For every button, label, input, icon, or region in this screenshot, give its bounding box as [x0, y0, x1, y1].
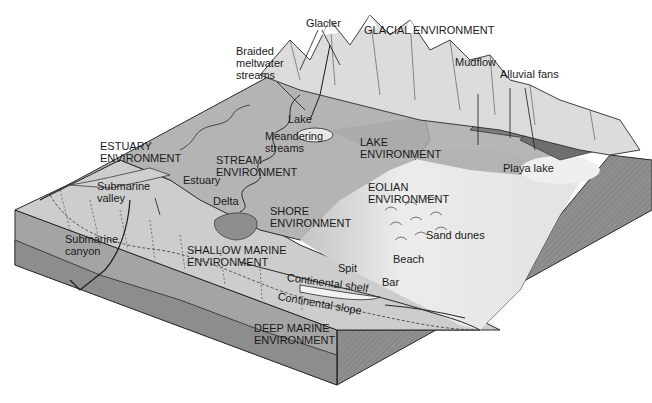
label-stream-environment: STREAM ENVIRONMENT — [216, 154, 297, 178]
label-deep-marine-environment: DEEP MARINE ENVIRONMENT — [254, 322, 335, 346]
label-shallow-marine-environment: SHALLOW MARINE ENVIRONMENT — [187, 244, 287, 268]
label-playa-lake: Playa lake — [503, 162, 554, 174]
label-alluvial-fans: Alluvial fans — [500, 68, 559, 80]
label-estuary: Estuary — [183, 174, 220, 186]
label-shore-environment: SHORE ENVIRONMENT — [270, 205, 351, 229]
label-delta: Delta — [213, 195, 239, 207]
label-beach: Beach — [393, 253, 424, 265]
label-mudflow: Mudflow — [455, 56, 496, 68]
label-sand-dunes: Sand dunes — [426, 229, 485, 241]
label-lake-environment: LAKE ENVIRONMENT — [360, 136, 441, 160]
label-glacier: Glacier — [306, 17, 341, 29]
label-glacial-environment: GLACIAL ENVIRONMENT — [364, 24, 494, 36]
label-eolian-environment: EOLIAN ENVIRONMENT — [368, 181, 449, 205]
label-bar: Bar — [382, 276, 399, 288]
label-spit: Spit — [338, 262, 357, 274]
label-submarine-canyon: Submarine canyon — [65, 233, 118, 257]
label-submarine-valley: Submarine valley — [97, 180, 150, 204]
label-meandering-streams: Meandering streams — [265, 130, 323, 154]
label-estuary-environment: ESTUARY ENVIRONMENT — [100, 140, 181, 164]
label-braided-streams: Braided meltwater streams — [236, 45, 284, 81]
label-lake: Lake — [288, 113, 312, 125]
